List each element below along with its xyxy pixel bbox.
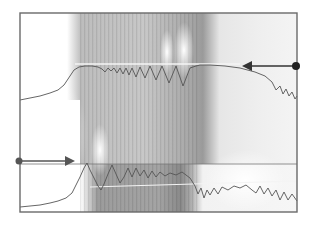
upper-arrow-dot [292, 62, 300, 70]
white-lobe-right [205, 150, 285, 210]
lower-arrow-dot [16, 158, 23, 165]
white-lobe [91, 124, 109, 176]
figure-canvas [0, 0, 313, 227]
spectrogram-figure [0, 0, 313, 227]
